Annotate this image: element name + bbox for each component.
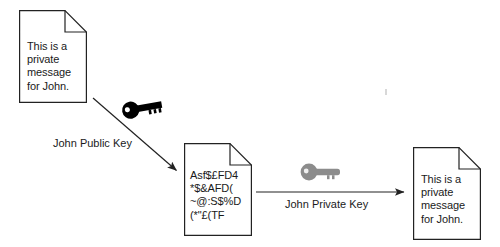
decrypted-plaintext-document: This is a private message for John. bbox=[413, 147, 481, 240]
document-body-text: This is a private message for John. bbox=[421, 173, 465, 226]
private-key-icon-wrapper bbox=[298, 160, 350, 184]
document-body-text: This is a private message for John. bbox=[27, 40, 71, 93]
public-key-label: John Public Key bbox=[53, 137, 132, 149]
key-icon bbox=[118, 95, 168, 121]
diagram-canvas: This is a private message for John. John… bbox=[0, 0, 500, 247]
source-plaintext-document: This is a private message for John. bbox=[19, 10, 87, 103]
encrypted-document: Asf$£FD4 *$&AFD( ~@:S$%D (*"£(TF bbox=[184, 143, 252, 236]
document-body-text: Asf$£FD4 *$&AFD( ~@:S$%D (*"£(TF bbox=[190, 169, 241, 222]
scan-artifact bbox=[385, 89, 387, 95]
private-key-label: John Private Key bbox=[285, 198, 368, 210]
public-key-icon-wrapper bbox=[118, 95, 168, 121]
key-icon bbox=[298, 160, 350, 184]
